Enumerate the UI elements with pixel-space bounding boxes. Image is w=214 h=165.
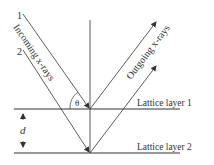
outgoing-label: Outgoing x-rays [124, 22, 172, 81]
ray-label-2: 2 [17, 46, 22, 57]
angle-label: θ [75, 98, 79, 108]
spacing-label: d [20, 124, 26, 136]
ray-label-1: 1 [17, 10, 22, 21]
incoming-ray-1 [23, 14, 89, 108]
lattice-layer-2-label: Lattice layer 2 [137, 142, 192, 152]
outgoing-ray-1 [90, 22, 156, 109]
lattice-layer-1-label: Lattice layer 1 [137, 98, 192, 108]
bragg-diagram: 1 2 Incoming x-rays Outgoing x-rays θ d … [0, 0, 214, 165]
